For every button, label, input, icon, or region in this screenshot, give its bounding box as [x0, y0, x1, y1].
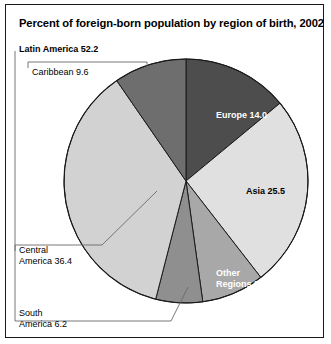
label-central-america: Central America 36.4 — [19, 245, 72, 267]
label-south-america: South America 6.2 — [19, 308, 67, 330]
label-other-regions-line1: Other — [216, 268, 240, 278]
pie-slices — [64, 59, 308, 303]
label-central-america-line2: America 36.4 — [19, 256, 72, 266]
label-south-america-line2: America 6.2 — [19, 319, 67, 329]
label-other-regions: Other Regions 8.3 — [216, 268, 267, 290]
pie-chart-graphic — [6, 5, 325, 339]
label-other-regions-line2: Regions 8.3 — [216, 279, 267, 289]
label-asia: Asia 25.5 — [246, 186, 285, 197]
chart-frame: Percent of foreign-born population by re… — [5, 4, 324, 338]
label-latin-america: Latin America 52.2 — [19, 44, 98, 55]
label-central-america-line1: Central — [19, 245, 48, 255]
label-caribbean: Caribbean 9.6 — [32, 67, 89, 78]
label-europe: Europe 14.0 — [216, 110, 267, 121]
label-south-america-line1: South — [19, 308, 43, 318]
